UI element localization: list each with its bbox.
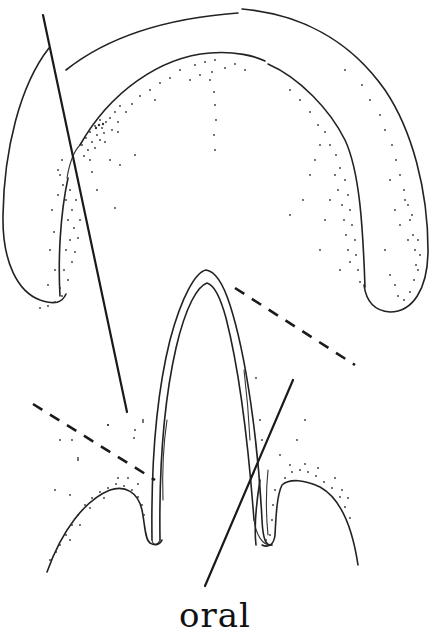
dashed-section-line-1 [235, 288, 355, 365]
solid-section-line-2 [205, 380, 293, 586]
stipple-shading [39, 59, 421, 561]
central-u-loop [152, 270, 272, 545]
section-lines [33, 15, 355, 586]
lower-right-flap [255, 470, 358, 565]
orientation-label-oral: oral [0, 595, 430, 631]
lower-left-flap [47, 488, 162, 572]
inner-arch [67, 53, 365, 287]
dashed-section-line-2 [33, 404, 155, 480]
solid-section-line-1 [43, 15, 127, 412]
